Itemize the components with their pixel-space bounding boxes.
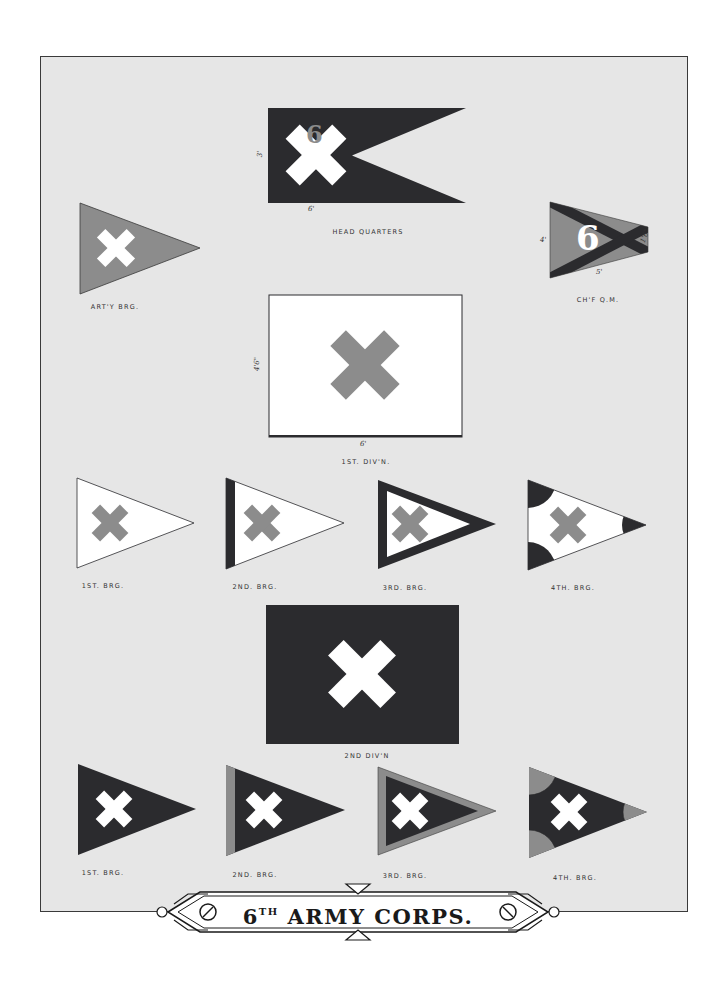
first-div-4th-brigade-flag xyxy=(528,480,646,570)
plate-title: 6TH ARMY CORPS. xyxy=(148,880,568,950)
head-quarters-flag xyxy=(268,108,466,203)
first-div-2nd-brigade-label: 2ND. BRG. xyxy=(232,583,277,591)
first-division-flag xyxy=(269,295,462,437)
hq-numeral: 6 xyxy=(306,120,323,149)
second-div-1st-brigade-flag xyxy=(78,764,196,855)
second-division-flag xyxy=(266,605,459,744)
first-div-2nd-brigade-flag xyxy=(226,478,344,569)
first-div-1st-brigade-label: 1ST. BRG. xyxy=(82,582,124,590)
second-div-1st-brigade-label: 1ST. BRG. xyxy=(82,869,124,877)
hq-width-dim: 6' xyxy=(308,205,314,213)
title-superscript: TH xyxy=(259,906,279,917)
head-quarters-label: HEAD QUARTERS xyxy=(332,228,403,236)
chief-qm-label: CH'F Q.M. xyxy=(577,296,620,304)
second-div-3rd-brigade-label: 3RD. BRG. xyxy=(383,872,428,880)
first-div-3rd-brigade-label: 3RD. BRG. xyxy=(383,584,428,592)
chief-qm-height-dim: 4' xyxy=(540,236,546,244)
first-div-4th-brigade-label: 4TH. BRG. xyxy=(551,584,595,592)
second-div-2nd-brigade-flag xyxy=(226,765,345,856)
first-division-height-dim: 4'6" xyxy=(253,357,261,371)
second-div-3rd-brigade-flag xyxy=(378,767,496,855)
title-prefix: 6 xyxy=(243,904,259,929)
title-main: ARMY CORPS. xyxy=(288,904,474,929)
second-div-2nd-brigade-label: 2ND. BRG. xyxy=(232,871,277,879)
first-div-3rd-brigade-flag xyxy=(378,480,496,569)
first-div-1st-brigade-flag xyxy=(77,478,194,568)
second-div-4th-brigade-flag xyxy=(529,767,647,858)
arty-brigade-label: ART'Y BRG. xyxy=(91,303,139,311)
first-division-width-dim: 6' xyxy=(360,440,366,448)
title-banner: 6TH ARMY CORPS. xyxy=(148,880,568,950)
first-division-label: 1ST. DIV'N. xyxy=(342,458,391,466)
hq-height-dim: 3' xyxy=(256,151,264,157)
arty-brigade-flag xyxy=(80,203,200,294)
chief-qm-width-dim: 5' xyxy=(596,268,602,276)
chief-qm-numeral: 6 xyxy=(576,218,600,258)
second-division-label: 2ND DIV'N xyxy=(345,752,390,760)
